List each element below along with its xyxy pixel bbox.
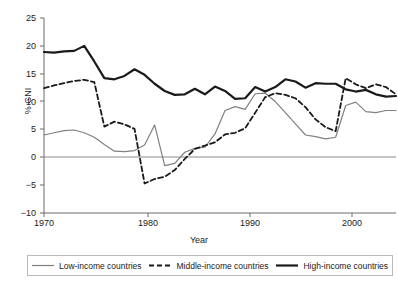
chart-figure: % GNI 25 20 15 10 5 0 −5 −10 1970 1980 1… (0, 0, 398, 283)
series-line-low-income-countries (44, 93, 396, 165)
legend-swatch-low-income (32, 261, 54, 270)
axis-lines (40, 18, 396, 217)
legend-swatch-high-income (276, 261, 298, 270)
legend-item-middle-income: Middle-income countries (149, 261, 268, 271)
series-line-middle-income-countries (44, 78, 396, 183)
legend-item-low-income: Low-income countries (32, 261, 142, 271)
plot-area (0, 0, 398, 283)
data-series-group (44, 46, 396, 184)
legend-label-middle-income: Middle-income countries (176, 261, 268, 271)
legend-swatch-middle-income (149, 261, 171, 270)
legend-label-low-income: Low-income countries (59, 261, 142, 271)
legend-item-high-income: High-income countries (276, 261, 388, 271)
chart-legend: Low-income countries Middle-income count… (27, 255, 393, 276)
legend-label-high-income: High-income countries (303, 261, 388, 271)
